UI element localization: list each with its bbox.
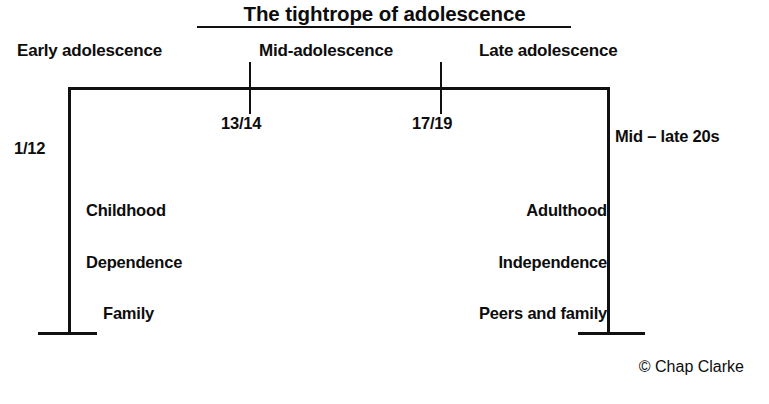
descriptor-dependence: Dependence [86, 253, 182, 272]
right-post [607, 87, 610, 335]
descriptor-peers-and-family: Peers and family [479, 304, 607, 323]
tightrope-rail [68, 87, 610, 90]
right-post-base [578, 332, 645, 335]
left-post [68, 87, 71, 335]
left-post-base [38, 332, 97, 335]
descriptor-adulthood: Adulthood [526, 201, 607, 220]
age-label-start: 1/12 [14, 139, 45, 158]
page-title: The tightrope of adolescence [0, 2, 769, 26]
tightrope-diagram: The tightrope of adolescence Early adole… [0, 0, 769, 404]
title-underline [197, 26, 571, 28]
age-label-end: Mid – late 20s [615, 127, 720, 146]
descriptor-independence: Independence [498, 253, 607, 272]
descriptor-childhood: Childhood [86, 201, 166, 220]
copyright-credit: © Chap Clarke [639, 358, 744, 376]
stage-label-early-adolescence: Early adolescence [17, 41, 162, 61]
stage-label-late-adolescence: Late adolescence [479, 41, 618, 61]
stage-label-mid-adolescence: Mid-adolescence [259, 41, 393, 61]
descriptor-family: Family [103, 304, 154, 323]
age-label-boundary-2: 17/19 [412, 114, 452, 133]
age-label-boundary-1: 13/14 [221, 114, 261, 133]
